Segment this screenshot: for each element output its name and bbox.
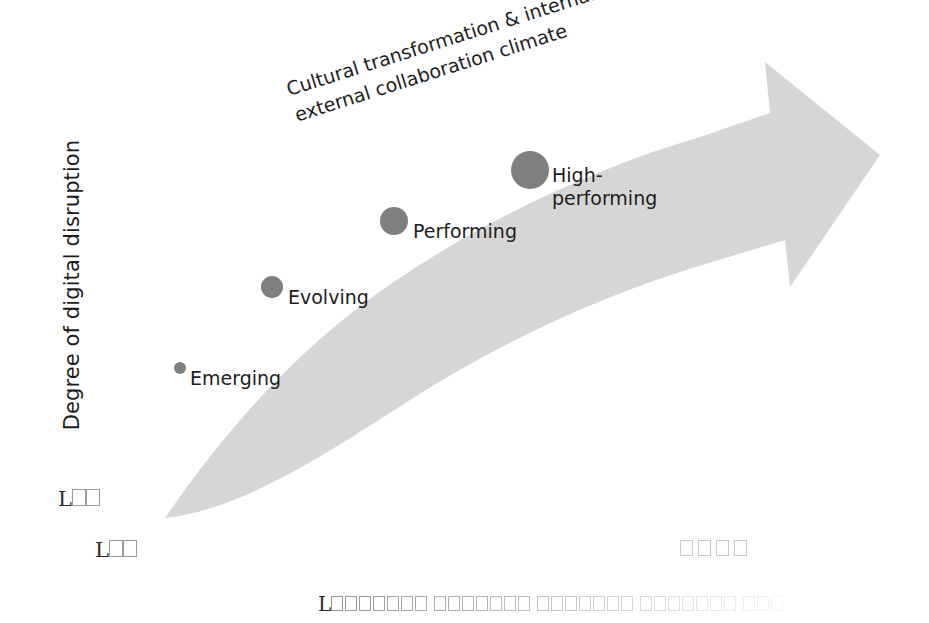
growth-arrow — [0, 0, 929, 623]
missing-glyph-run — [680, 540, 752, 556]
missing-glyph-box — [716, 540, 729, 556]
missing-glyph-box — [373, 596, 385, 611]
missing-glyph-box — [640, 596, 652, 611]
missing-glyph-box — [607, 596, 619, 611]
unrendered-label-left-lower: L — [95, 538, 137, 562]
missing-glyph-box — [387, 596, 399, 611]
missing-glyph-box — [415, 596, 427, 611]
missing-glyph-box — [771, 596, 783, 611]
missing-glyph-box — [668, 596, 680, 611]
missing-glyph-box — [331, 596, 343, 611]
missing-glyph-box — [123, 540, 137, 557]
missing-glyph-box — [734, 540, 747, 556]
stage-label-performing: Performing — [413, 220, 517, 243]
missing-glyph-box — [680, 540, 693, 556]
stage-label-high-performing: High- performing — [552, 164, 657, 210]
missing-glyph-box — [86, 489, 100, 506]
missing-glyph-box — [504, 596, 516, 611]
stage-bubble-evolving — [261, 276, 283, 298]
unrendered-label-lead: L — [318, 592, 331, 616]
missing-glyph-box — [654, 596, 666, 611]
missing-glyph-box — [109, 540, 123, 557]
missing-glyph-box — [401, 596, 413, 611]
unrendered-label-lead: L — [58, 487, 72, 511]
missing-glyph-box — [696, 596, 708, 611]
missing-glyph-box — [72, 489, 86, 506]
missing-glyph-box — [476, 596, 488, 611]
stage-bubble-high-performing — [511, 151, 549, 189]
missing-glyph-box — [565, 596, 577, 611]
missing-glyph-box — [757, 596, 769, 611]
missing-glyph-box — [682, 596, 694, 611]
unrendered-label-left-upper: L — [58, 487, 100, 511]
missing-glyph-box — [621, 596, 633, 611]
stage-label-emerging: Emerging — [190, 367, 281, 390]
missing-glyph-box — [518, 596, 530, 611]
missing-glyph-box — [448, 596, 460, 611]
figure-canvas: Degree of digital disruption Cultural tr… — [0, 0, 929, 623]
missing-glyph-box — [593, 596, 605, 611]
unrendered-label-lead: L — [95, 538, 109, 562]
stage-label-evolving: Evolving — [288, 286, 369, 309]
stage-bubble-emerging — [174, 362, 186, 374]
missing-glyph-run — [109, 540, 137, 557]
missing-glyph-box — [743, 596, 755, 611]
missing-glyph-box — [579, 596, 591, 611]
unrendered-label-right-group — [680, 540, 752, 556]
stage-bubble-performing — [380, 207, 408, 235]
missing-glyph-box — [724, 596, 736, 611]
missing-glyph-run — [72, 489, 100, 506]
missing-glyph-box — [359, 596, 371, 611]
missing-glyph-run — [331, 596, 785, 611]
missing-glyph-box — [537, 596, 549, 611]
y-axis-label: Degree of digital disruption — [60, 85, 84, 485]
missing-glyph-box — [345, 596, 357, 611]
missing-glyph-box — [490, 596, 502, 611]
missing-glyph-box — [434, 596, 446, 611]
unrendered-label-bottom: L — [318, 592, 785, 616]
missing-glyph-box — [698, 540, 711, 556]
missing-glyph-box — [710, 596, 722, 611]
missing-glyph-box — [462, 596, 474, 611]
missing-glyph-box — [551, 596, 563, 611]
